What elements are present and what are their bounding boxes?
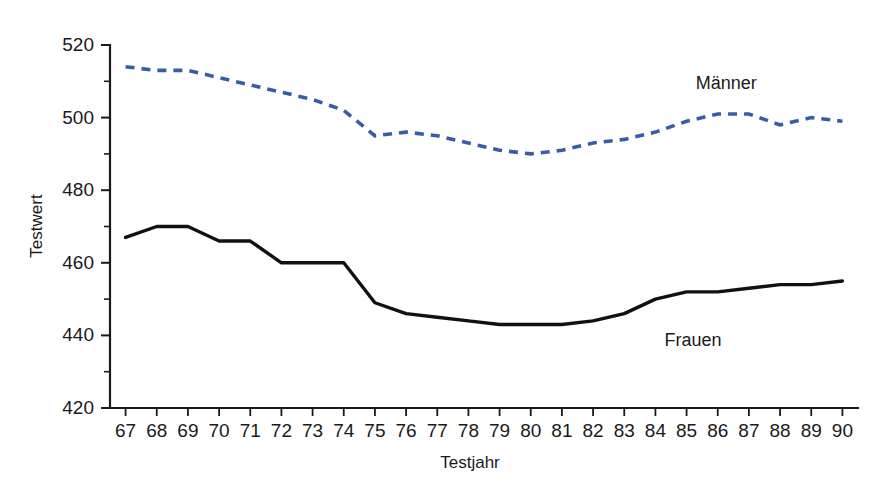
series-label-männer: Männer: [696, 73, 757, 93]
x-axis-ticks: [126, 408, 843, 416]
series-label-frauen: Frauen: [665, 330, 722, 350]
axis-lines: [110, 45, 858, 408]
x-tick-label: 83: [614, 420, 635, 441]
series-annotations: MännerFrauen: [665, 73, 757, 351]
y-tick-label: 480: [62, 179, 94, 200]
y-tick-label: 460: [62, 252, 94, 273]
chart-container: 420440460480500520 676869707172737475767…: [0, 0, 883, 498]
y-tick-label: 420: [62, 397, 94, 418]
x-tick-label: 67: [115, 420, 136, 441]
x-tick-label: 78: [458, 420, 479, 441]
x-tick-label: 88: [770, 420, 791, 441]
x-tick-label: 76: [396, 420, 417, 441]
x-tick-label: 84: [645, 420, 667, 441]
x-tick-label: 87: [738, 420, 759, 441]
x-tick-label: 79: [489, 420, 510, 441]
x-axis-title: Testjahr: [440, 453, 500, 472]
x-tick-label: 73: [302, 420, 323, 441]
y-axis-tick-labels: 420440460480500520: [62, 34, 94, 418]
x-tick-label: 86: [707, 420, 728, 441]
y-tick-label: 440: [62, 324, 94, 345]
x-tick-label: 70: [209, 420, 230, 441]
x-tick-label: 74: [333, 420, 355, 441]
series-line-frauen: [126, 227, 843, 325]
x-tick-label: 71: [240, 420, 261, 441]
y-axis-ticks: [101, 45, 110, 408]
line-chart: 420440460480500520 676869707172737475767…: [0, 0, 883, 498]
plot-area: 420440460480500520 676869707172737475767…: [62, 34, 858, 441]
x-tick-label: 75: [364, 420, 385, 441]
y-tick-label: 500: [62, 107, 94, 128]
x-tick-label: 90: [832, 420, 853, 441]
y-tick-label: 520: [62, 34, 94, 55]
x-tick-label: 82: [583, 420, 604, 441]
x-tick-label: 68: [146, 420, 167, 441]
y-axis-title: Testwert: [27, 194, 46, 258]
data-series-layer: [126, 67, 843, 325]
x-tick-label: 72: [271, 420, 292, 441]
x-tick-label: 89: [801, 420, 822, 441]
x-tick-label: 80: [520, 420, 541, 441]
x-tick-label: 85: [676, 420, 697, 441]
x-tick-label: 81: [551, 420, 572, 441]
axis-frame: [110, 45, 858, 408]
x-axis-tick-labels: 6768697071727374757677787980818283848586…: [115, 420, 853, 441]
x-tick-label: 69: [177, 420, 198, 441]
x-tick-label: 77: [427, 420, 448, 441]
